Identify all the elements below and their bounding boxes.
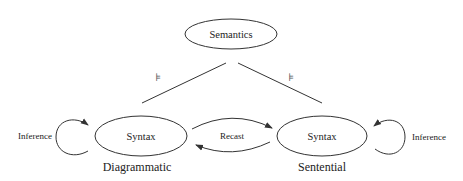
syntax-sentential-node: Syntax Sentential <box>277 116 367 174</box>
diagrammatic-caption: Diagrammatic <box>103 160 172 174</box>
syntax-diagrammatic-label: Syntax <box>126 131 156 142</box>
sentential-caption: Sentential <box>298 160 347 174</box>
inference-label-left: Inference <box>18 131 52 141</box>
satisfies-symbol-right: ⊧ <box>288 71 294 84</box>
syntax-semantics-diagram: Semantics ⊧ ⊧ Syntax Diagrammatic Syntax… <box>0 0 463 181</box>
satisfies-symbol-left: ⊧ <box>155 71 161 84</box>
semantics-node: Semantics <box>185 19 277 49</box>
recast-label: Recast <box>220 131 244 141</box>
recast-arrow-back <box>196 142 270 152</box>
syntax-sentential-label: Syntax <box>307 131 337 142</box>
inference-loop-left <box>56 120 88 155</box>
semantics-to-sentential-line <box>238 63 322 103</box>
inference-loop-right <box>374 120 405 154</box>
semantics-label: Semantics <box>209 29 252 40</box>
inference-label-right: Inference <box>412 132 446 142</box>
recast-arrow-forward <box>192 118 272 129</box>
syntax-diagrammatic-node: Syntax Diagrammatic <box>95 116 187 174</box>
